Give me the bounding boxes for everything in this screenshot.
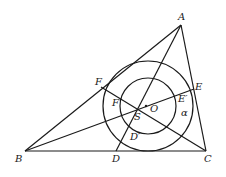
label-f: F bbox=[94, 76, 103, 87]
label-alpha: α bbox=[181, 107, 188, 118]
label-d: D bbox=[111, 153, 120, 164]
center-point bbox=[145, 105, 147, 107]
geometry-diagram: A B C D E F O S D′ E′ F′ α bbox=[0, 0, 226, 177]
label-c: C bbox=[204, 153, 212, 164]
label-s: S bbox=[134, 111, 141, 122]
label-b: B bbox=[14, 153, 22, 164]
label-e-prime: E′ bbox=[177, 93, 188, 104]
cevian-ad bbox=[116, 25, 181, 151]
label-f-prime: F′ bbox=[111, 97, 122, 108]
label-e: E bbox=[194, 81, 203, 92]
label-d-prime: D′ bbox=[129, 131, 141, 142]
label-o: O bbox=[150, 103, 158, 114]
cevian-be bbox=[25, 89, 194, 151]
label-a: A bbox=[177, 11, 185, 22]
